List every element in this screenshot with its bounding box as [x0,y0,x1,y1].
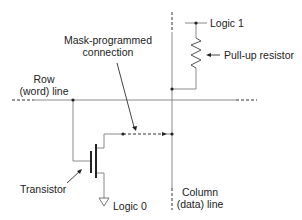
gate-wire [73,100,90,161]
drain-wire [97,134,123,148]
row-line-label: Row (word) line [14,73,74,97]
arrowhead-icon [132,126,137,131]
transistor-leader-line [67,171,80,183]
row-label-line2: (word) line [14,85,74,97]
pullup-wire [172,68,196,89]
junction-dot [194,21,197,24]
junction-dot [71,98,74,101]
mask-label-line2: connection [58,46,158,58]
arrowhead-icon [206,53,211,57]
logic1-label: Logic 1 [210,17,244,29]
logic0-label: Logic 0 [113,200,147,212]
junction-dot [121,132,124,135]
source-wire [97,173,104,198]
mask-connection-label: Mask-programmed connection [58,34,158,58]
pullup-resistor-label: Pull-up resistor [224,49,294,61]
mask-label-line1: Mask-programmed [58,34,158,46]
resistor-zigzag-icon [191,38,201,68]
column-label-line2: (data) line [175,198,225,210]
row-label-line1: Row [14,73,74,85]
column-line-label: Column (data) line [175,186,225,210]
transistor-label: Transistor [20,183,66,195]
junction-dot [170,132,173,135]
column-label-line1: Column [175,186,225,198]
arrowhead-icon [162,132,167,136]
mask-leader-line [117,63,134,127]
ground-icon [99,198,109,206]
junction-dot [170,87,173,90]
